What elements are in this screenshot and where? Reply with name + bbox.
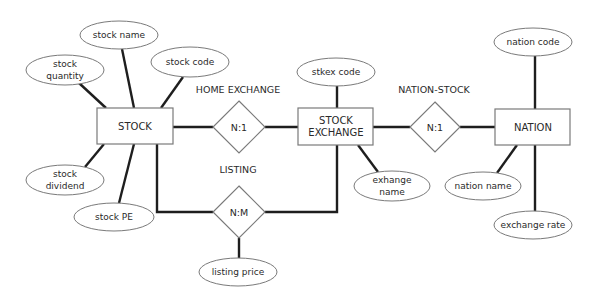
relationship-nation-stock[interactable]: NATION-STOCK N:1 — [398, 84, 470, 153]
connector-stock-code — [161, 77, 183, 108]
attribute-stock-dividend[interactable]: stock dividend — [26, 165, 104, 195]
entity-stock-exchange[interactable]: STOCK EXCHANGE — [298, 108, 373, 145]
connector-stock-quantity — [79, 83, 106, 108]
relationship-listing-name: LISTING — [219, 164, 256, 175]
attribute-stock-pe-label: stock PE — [95, 212, 133, 222]
relationship-home-exchange[interactable]: HOME EXCHANGE N:1 — [196, 84, 280, 154]
connector-stock-dividend — [85, 144, 104, 167]
connector-nation-name — [497, 145, 517, 173]
attribute-exchange-rate[interactable]: exchange rate — [494, 211, 572, 239]
connector-exchange-name — [358, 145, 378, 172]
relationship-home-exchange-cardinality: N:1 — [231, 122, 247, 133]
relationship-listing[interactable]: LISTING N:M — [213, 164, 265, 239]
relationship-nation-stock-name: NATION-STOCK — [398, 84, 470, 95]
entity-stock-exchange-label-line2: EXCHANGE — [308, 127, 363, 138]
attribute-exchange-name-line1: exhange — [373, 175, 412, 185]
attribute-listing-price-label: listing price — [212, 267, 265, 277]
connector-listing-stock-exchange — [265, 145, 337, 212]
entity-nation-label: NATION — [514, 122, 552, 133]
attribute-exchange-name-line2: name — [379, 187, 405, 197]
attribute-stock-quantity-line1: stock — [53, 59, 78, 69]
attribute-exchange-rate-label: exchange rate — [501, 220, 566, 230]
attribute-stock-pe[interactable]: stock PE — [74, 203, 154, 231]
relationship-listing-cardinality: N:M — [230, 207, 249, 218]
attribute-nation-name-label: nation name — [455, 181, 512, 191]
relationship-nation-stock-cardinality: N:1 — [427, 122, 443, 133]
relationship-home-exchange-name: HOME EXCHANGE — [196, 84, 280, 95]
attribute-stock-dividend-line1: stock — [53, 169, 78, 179]
entity-stock-label: STOCK — [118, 121, 152, 132]
attribute-stkex-code-label: stkex code — [312, 67, 361, 77]
attribute-nation-code-label: nation code — [506, 37, 559, 47]
connector-stock-name — [122, 49, 134, 108]
attribute-stock-dividend-line2: dividend — [46, 181, 85, 191]
entity-stock-exchange-label-line1: STOCK — [319, 115, 353, 126]
attribute-stock-code[interactable]: stock code — [151, 47, 229, 77]
connector-stock-listing — [157, 144, 213, 212]
connector-stock-pe — [119, 144, 134, 203]
entity-stock[interactable]: STOCK — [97, 108, 173, 144]
attribute-stock-quantity[interactable]: stock quantity — [26, 55, 104, 85]
attribute-listing-price[interactable]: listing price — [199, 258, 277, 286]
attribute-stock-name[interactable]: stock name — [80, 21, 158, 49]
attribute-stock-code-label: stock code — [166, 57, 215, 67]
attribute-exchange-name[interactable]: exhange name — [354, 171, 430, 201]
attribute-stkex-code[interactable]: stkex code — [297, 58, 375, 86]
attribute-nation-name[interactable]: nation name — [445, 172, 521, 200]
attribute-stock-quantity-line2: quantity — [46, 71, 84, 81]
entity-nation[interactable]: NATION — [495, 109, 570, 145]
er-diagram: STOCK STOCK EXCHANGE NATION HOME EXCHANG… — [0, 0, 593, 303]
attribute-nation-code[interactable]: nation code — [494, 28, 572, 56]
attribute-stock-name-label: stock name — [93, 30, 146, 40]
